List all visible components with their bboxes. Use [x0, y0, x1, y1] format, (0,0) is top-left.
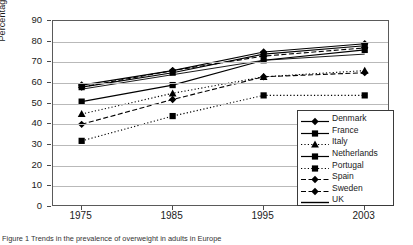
data-point [362, 92, 368, 98]
gridline [53, 62, 388, 63]
x-tick-label: 1975 [51, 210, 111, 221]
series-denmark [78, 40, 368, 89]
legend-label: Sweden [332, 184, 363, 193]
legend-label: Netherlands [332, 149, 378, 158]
y-tick-label: 80 [16, 36, 42, 46]
legend-swatch-sweden-icon [300, 183, 330, 194]
legend-swatch-spain-icon [300, 171, 330, 182]
legend-label: Spain [332, 172, 354, 181]
y-tick-mark [47, 165, 51, 166]
y-tick-mark [47, 61, 51, 62]
figure-container: Percentage 0102030405060708090 197519851… [0, 0, 413, 245]
y-tick-label: 10 [16, 180, 42, 190]
y-tick-mark [47, 103, 51, 104]
x-tick-label: 1995 [233, 210, 293, 221]
y-tick-mark [47, 123, 51, 124]
figure-caption: Figure 1 Trends in the prevalence of ove… [2, 234, 411, 243]
data-point [361, 69, 368, 76]
legend-item-denmark[interactable]: Denmark [300, 113, 393, 125]
legend-label: Denmark [332, 114, 366, 123]
legend-item-france[interactable]: France [300, 125, 393, 137]
legend-label: France [332, 126, 358, 135]
y-tick-mark [47, 82, 51, 83]
legend-item-italy[interactable]: Italy [300, 136, 393, 148]
legend-label: Portugal [332, 161, 364, 170]
data-point [261, 92, 267, 98]
gridline [53, 42, 388, 43]
x-tick-mark [263, 206, 264, 210]
x-tick-mark [172, 206, 173, 210]
y-tick-label: 30 [16, 139, 42, 149]
data-point [169, 96, 176, 103]
x-tick-mark [364, 206, 365, 210]
y-tick-mark [47, 41, 51, 42]
y-tick-mark [47, 144, 51, 145]
y-tick-mark [47, 20, 51, 21]
data-point [170, 113, 176, 119]
legend-swatch-italy-icon [300, 136, 330, 147]
legend-swatch-uk-icon [300, 194, 330, 205]
y-axis-title: Percentage [0, 0, 7, 78]
legend-swatch-portugal-icon [300, 160, 330, 171]
y-tick-label: 40 [16, 118, 42, 128]
gridline [53, 83, 388, 84]
y-tick-mark [47, 206, 51, 207]
legend-swatch-france-icon [300, 125, 330, 136]
legend-swatch-netherlands-icon [300, 148, 330, 159]
legend-label: UK [332, 195, 344, 204]
legend-item-netherlands[interactable]: Netherlands [300, 148, 393, 160]
x-tick-label: 2003 [334, 210, 394, 221]
y-tick-label: 90 [16, 15, 42, 25]
x-tick-mark [81, 206, 82, 210]
legend-item-spain[interactable]: Spain [300, 171, 393, 183]
y-tick-label: 50 [16, 98, 42, 108]
y-tick-label: 60 [16, 77, 42, 87]
series-france [79, 47, 368, 105]
legend-item-uk[interactable]: UK [300, 194, 393, 206]
gridline [53, 104, 388, 105]
y-tick-label: 70 [16, 56, 42, 66]
legend-item-portugal[interactable]: Portugal [300, 159, 393, 171]
data-point [78, 110, 86, 117]
legend-swatch-denmark-icon [300, 113, 330, 124]
chart-legend: DenmarkFranceItalyNetherlandsPortugalSpa… [297, 110, 394, 206]
y-tick-mark [47, 185, 51, 186]
y-tick-label: 0 [16, 201, 42, 211]
y-tick-label: 20 [16, 160, 42, 170]
data-point [79, 138, 85, 144]
x-tick-label: 1985 [142, 210, 202, 221]
legend-item-sweden[interactable]: Sweden [300, 183, 393, 195]
legend-label: Italy [332, 137, 348, 146]
